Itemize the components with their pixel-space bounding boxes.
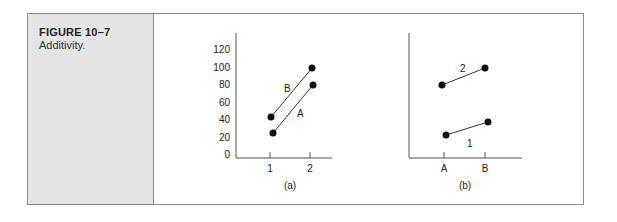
chart-b-caption: (b) (459, 180, 471, 191)
series-1-point (485, 119, 492, 126)
chart-a-xtick: 2 (307, 163, 313, 174)
series-a-point (310, 82, 317, 89)
series-b-label: B (284, 83, 291, 94)
series-1-point (443, 132, 450, 139)
series-1-label: 1 (467, 138, 473, 149)
series-a-line (273, 85, 313, 133)
series-a-label: A (297, 108, 304, 119)
series-1-line (446, 122, 488, 135)
chart-b: A B 2 1 (b) (409, 33, 522, 191)
chart-a-ytick: 60 (219, 97, 231, 108)
chart-a-ytick: 0 (224, 149, 230, 160)
series-2-point (439, 82, 446, 89)
chart-b-xtick: B (482, 163, 489, 174)
chart-a-caption: (a) (284, 180, 296, 191)
chart-b-xtick: A (441, 163, 448, 174)
series-2-label: 2 (460, 63, 466, 74)
chart-a-ytick: 120 (213, 44, 230, 55)
charts: 120 100 80 60 40 20 0 1 2 B A (a) A B 2 (0, 0, 617, 222)
series-b-point (309, 65, 316, 72)
chart-a: 120 100 80 60 40 20 0 1 2 B A (a) (213, 33, 332, 191)
chart-a-ytick: 40 (219, 114, 231, 125)
series-2-point (482, 65, 489, 72)
series-b-point (268, 114, 275, 121)
series-b-line (271, 68, 312, 117)
chart-a-xtick: 1 (267, 163, 273, 174)
series-a-point (270, 130, 277, 137)
chart-a-ytick: 20 (219, 132, 231, 143)
chart-a-ytick: 80 (219, 79, 231, 90)
chart-a-ytick: 100 (213, 62, 230, 73)
